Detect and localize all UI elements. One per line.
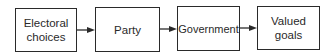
node-valued-goals: Valued goals <box>257 6 320 50</box>
node-government: Government <box>177 6 240 51</box>
node-electoral-choices: Electoral choices <box>15 8 77 52</box>
arrowhead-icon <box>87 27 95 33</box>
arrowhead-icon <box>249 25 257 31</box>
arrow-government-to-valued-goals <box>240 25 257 31</box>
arrow-electoral-to-party <box>77 27 95 33</box>
arrow-party-to-government <box>160 26 177 32</box>
arrowhead-icon <box>169 26 177 32</box>
node-party: Party <box>95 7 160 52</box>
